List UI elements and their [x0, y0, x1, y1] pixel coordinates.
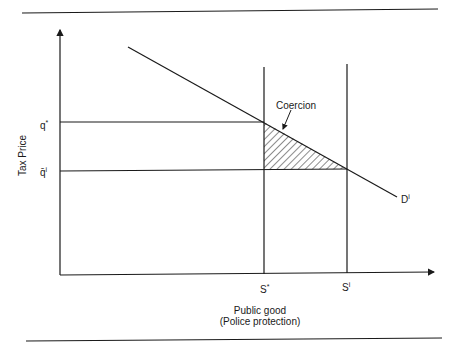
q-star-label: q* — [40, 119, 48, 131]
s-i-sup: i — [349, 281, 351, 288]
q-bar-i-sup: i — [46, 166, 48, 173]
x-axis-label-line1: Public good — [200, 305, 320, 316]
x-axis-label: Public good (Police protection) — [200, 305, 320, 327]
demand-sup: i — [408, 193, 410, 200]
s-i-label: Si — [342, 281, 350, 293]
y-axis-label: Tax Price — [17, 126, 28, 186]
q-bar-i-label: q̄i — [40, 166, 47, 178]
coercion-label: Coercion — [276, 101, 316, 111]
s-star-text: S — [260, 284, 267, 295]
s-star-sup: * — [267, 283, 270, 290]
s-star-label: S* — [260, 283, 269, 295]
diagram-canvas — [0, 0, 462, 352]
coercion-pointer — [283, 110, 291, 129]
top-rule — [22, 9, 438, 13]
bottom-rule — [26, 338, 442, 341]
s-i-text: S — [342, 282, 349, 293]
x-axis — [60, 272, 434, 275]
q-bar-i-line — [60, 169, 347, 171]
q-star-sup: * — [46, 119, 49, 126]
demand-label: Di — [401, 193, 410, 205]
x-axis-label-line2: (Police protection) — [200, 316, 320, 327]
